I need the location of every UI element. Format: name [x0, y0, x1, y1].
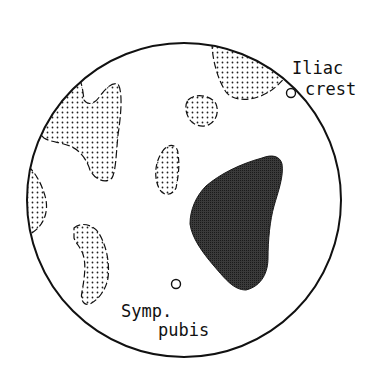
iliac-crest-label-line1: Iliac	[292, 59, 343, 78]
iliac-crest-marker	[287, 89, 296, 98]
upper-left-stippled-region	[20, 70, 121, 181]
iliac-crest-label-line2: crest	[305, 80, 356, 99]
symphysis-pubis-label-line2: pubis	[158, 321, 209, 340]
lower-left-stippled-region	[74, 225, 109, 305]
symphysis-pubis-marker	[172, 280, 181, 289]
upper-right-stippled-region	[212, 30, 300, 99]
center-stippled-region	[156, 145, 179, 194]
left-edge-stippled-region	[20, 160, 47, 240]
upper-center-stippled-region	[186, 96, 217, 126]
symphysis-pubis-label-line1: Symp.	[121, 302, 172, 321]
lower-right-dark-region	[190, 156, 282, 290]
